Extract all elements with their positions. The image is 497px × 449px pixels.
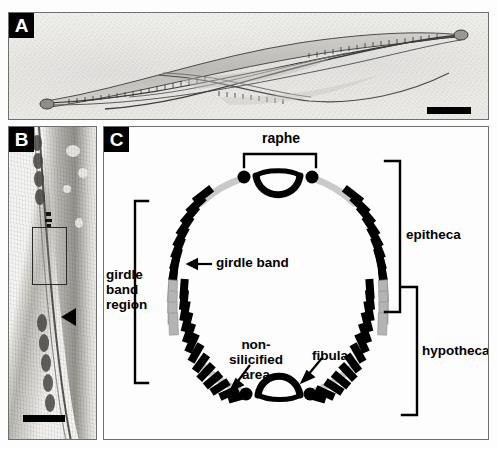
label-hypotheca: hypotheca: [422, 343, 489, 358]
panel-b-letter: B: [9, 127, 34, 152]
panel-a-micrograph: [9, 13, 488, 119]
girdle-band-arrow-head: [188, 260, 197, 269]
girdle-bands-right-new: [378, 280, 389, 335]
panel-b: B: [8, 126, 97, 440]
panel-c-letter: C: [104, 127, 129, 152]
girdle-bands-left-new: [167, 280, 178, 335]
panel-b-arrowhead: [61, 308, 76, 326]
panel-a-letter: A: [9, 13, 34, 38]
panel-b-inset-box: [32, 227, 67, 285]
label-girdle-band-region: girdle band region: [106, 267, 134, 312]
label-fibula: fibula: [312, 348, 348, 363]
hypotheca-bracket: [402, 287, 417, 415]
panel-a-scale-bar: [427, 107, 471, 114]
panel-b-scale-bar: [23, 415, 65, 422]
figure-root: A: [0, 0, 497, 449]
panel-a: A: [8, 12, 489, 120]
label-girdle-band: girdle band: [216, 255, 289, 270]
label-epitheca: epitheca: [406, 227, 461, 242]
raphe-bracket: [244, 154, 316, 167]
panel-b-micrograph: [9, 127, 96, 439]
panel-a-cell-drawing: [9, 13, 489, 120]
fibula-arrow-head: [302, 372, 314, 383]
girdle-bands-right-hypotheca: [305, 279, 375, 404]
raphe-structure: [238, 171, 319, 195]
panel-c-diagram: raphe girdle band girdle band region non…: [104, 127, 488, 439]
label-non-silicified-area: non-silicified area: [218, 337, 294, 382]
label-raphe: raphe: [246, 131, 316, 147]
frustule-schematic: [104, 127, 489, 440]
panel-c: raphe girdle band girdle band region non…: [103, 126, 489, 440]
